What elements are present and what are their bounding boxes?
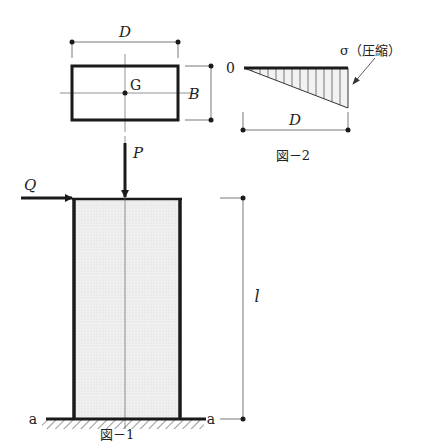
centroid-point	[123, 91, 128, 96]
origin-label: 0	[226, 60, 235, 76]
stress-label: σ（圧縮）	[340, 43, 401, 58]
figure-1-caption-wrap: 図－1	[100, 425, 150, 429]
section-a-left-label: a	[29, 411, 37, 427]
figure-2-width-label: D	[288, 111, 301, 129]
column-body	[74, 199, 180, 418]
cross-section-width-dimension: D	[70, 23, 181, 58]
stress-leader-arrow	[353, 58, 375, 84]
figure-2-caption: 図－2	[276, 148, 310, 163]
figure-2-width-dimension: D	[241, 111, 351, 133]
column-height-label: l	[254, 287, 259, 306]
column-height-dimension: l	[220, 196, 260, 422]
section-a-right-label: a	[207, 411, 215, 427]
cross-section-depth-dimension: B	[185, 64, 214, 123]
load-p-label: P	[132, 144, 144, 162]
figure-1-caption: 図－1	[100, 424, 134, 443]
cross-section-width-label: D	[118, 23, 131, 41]
centroid-label: G	[130, 77, 141, 93]
figure-2-stress-diagram: 0 σ（圧縮） D 図－2	[226, 43, 401, 163]
figure-1-column-diagram: P Q a a l	[21, 136, 260, 429]
cross-section-depth-label: B	[187, 85, 199, 103]
cross-section: D G B	[60, 23, 214, 132]
load-q-label: Q	[24, 176, 36, 194]
